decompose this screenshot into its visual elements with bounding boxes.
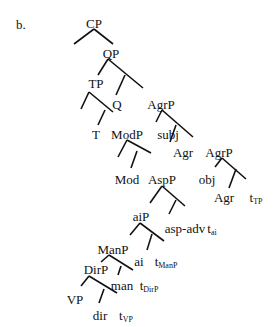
tree-node-tvp: tVP: [119, 309, 133, 326]
node-subscript: ManP: [158, 261, 177, 270]
tree-node-tmanp: tManP: [155, 255, 178, 272]
tree-branch: [94, 29, 113, 44]
tree-branches: [0, 0, 274, 327]
tree-branch: [147, 234, 152, 250]
tree-branch: [118, 266, 121, 275]
node-label: dir: [93, 308, 107, 323]
tree-node-vp: VP: [67, 293, 84, 306]
tree-node-dirp: DirP: [84, 263, 109, 276]
node-label: Agr: [173, 145, 193, 160]
tree-branch: [140, 223, 164, 241]
tree-branch: [99, 289, 104, 303]
node-subscript: ai: [211, 228, 217, 237]
tree-node-modp: ModP: [111, 128, 143, 141]
tree-node-ai: ai: [134, 255, 143, 268]
tree-node-t: T: [92, 128, 100, 141]
tree-branch: [98, 59, 108, 75]
tree-node-qp: QP: [103, 47, 120, 60]
tree-node-obj: obj: [199, 173, 216, 186]
node-label: T: [92, 127, 100, 142]
tree-branch: [74, 29, 94, 44]
node-label: AgrP: [147, 97, 174, 112]
node-subscript: TP: [253, 197, 262, 206]
tree-node-agr2: Agr: [214, 191, 234, 204]
tree-branch: [118, 140, 127, 157]
tree-branch: [89, 92, 113, 112]
node-label: VP: [67, 292, 84, 307]
node-label: asp-adv: [165, 221, 205, 236]
tree-node-mod: Mod: [115, 173, 140, 186]
tree-node-cp: CP: [86, 17, 102, 30]
tree-node-aspp: AspP: [148, 173, 176, 186]
tree-branch: [150, 186, 162, 203]
node-label: Mod: [115, 172, 140, 187]
node-label: obj: [199, 172, 216, 187]
tree-branch: [131, 151, 137, 168]
node-label: Agr: [214, 190, 234, 205]
node-label: DirP: [84, 262, 109, 277]
tree-node-agrp2: AgrP: [205, 146, 232, 159]
tree-node-agr1: Agr: [173, 146, 193, 159]
tree-node-subj: subj: [157, 128, 179, 141]
node-label: ManP: [97, 242, 128, 257]
node-label: CP: [86, 16, 102, 31]
node-label: ModP: [111, 127, 143, 142]
tree-node-manp: ManP: [97, 243, 128, 256]
tree-branch: [81, 276, 89, 286]
tree-branch: [81, 92, 89, 109]
node-label: aiP: [133, 209, 150, 224]
tree-node-ttp: tTP: [250, 191, 263, 208]
node-label: AspP: [148, 172, 176, 187]
node-label: ai: [134, 254, 143, 269]
tree-node-man: man: [111, 279, 133, 292]
node-label: QP: [103, 46, 120, 61]
node-label: AgrP: [205, 145, 232, 160]
tree-node-tai: tai: [207, 222, 216, 239]
tree-node-agrp1: AgrP: [147, 98, 174, 111]
node-subscript: VP: [123, 315, 133, 324]
node-label: Q: [112, 97, 121, 112]
tree-branch: [108, 59, 143, 88]
tree-node-q: Q: [112, 98, 121, 111]
tree-branch: [229, 169, 236, 188]
tree-node-aspadv: asp-adv: [165, 222, 205, 235]
tree-node-tdirp: tDirP: [140, 279, 159, 296]
tree-branch: [116, 75, 125, 95]
node-subscript: DirP: [143, 285, 158, 294]
tree-node-aip: aiP: [133, 210, 150, 223]
tree-branch: [130, 223, 140, 235]
node-label: subj: [157, 127, 179, 142]
tree-branch: [169, 200, 176, 214]
node-label: TP: [88, 76, 103, 91]
tree-branch: [162, 186, 185, 206]
tree-node-dir: dir: [93, 309, 107, 322]
tree-branch: [98, 110, 105, 125]
tree-node-tp: TP: [88, 77, 103, 90]
node-label: man: [111, 278, 133, 293]
